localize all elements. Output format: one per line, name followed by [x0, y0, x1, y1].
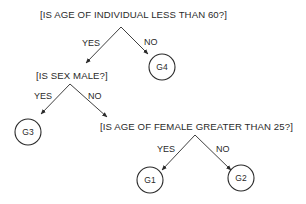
- edge-label-q1-yes: YES: [82, 38, 100, 48]
- leaf-label-g4: G4: [156, 62, 168, 72]
- edge-label-q1-no: NO: [144, 37, 158, 47]
- leaf-label-g3: G3: [22, 127, 34, 137]
- edge-label-q3-no: NO: [216, 144, 230, 154]
- leaf-label-g1: G1: [144, 175, 156, 185]
- leaf-node-g2: G2: [228, 165, 254, 191]
- edge-label-q3-yes: YES: [157, 144, 175, 154]
- edge-label-q2-yes: YES: [34, 91, 52, 101]
- decision-tree-diagram: [IS AGE OF INDIVIDUAL LESS THAN 60?] YES…: [0, 0, 306, 204]
- edge-label-q2-no: NO: [88, 91, 102, 101]
- question-age-less-than-60: [IS AGE OF INDIVIDUAL LESS THAN 60?]: [40, 9, 227, 20]
- leaf-node-g1: G1: [137, 167, 163, 193]
- question-sex-male: [IS SEX MALE?]: [36, 70, 108, 81]
- leaf-node-g3: G3: [15, 119, 41, 145]
- leaf-node-g4: G4: [149, 54, 175, 80]
- leaf-label-g2: G2: [235, 173, 247, 183]
- question-female-age-greater-than-25: [IS AGE OF FEMALE GREATER THAN 25?]: [100, 121, 293, 132]
